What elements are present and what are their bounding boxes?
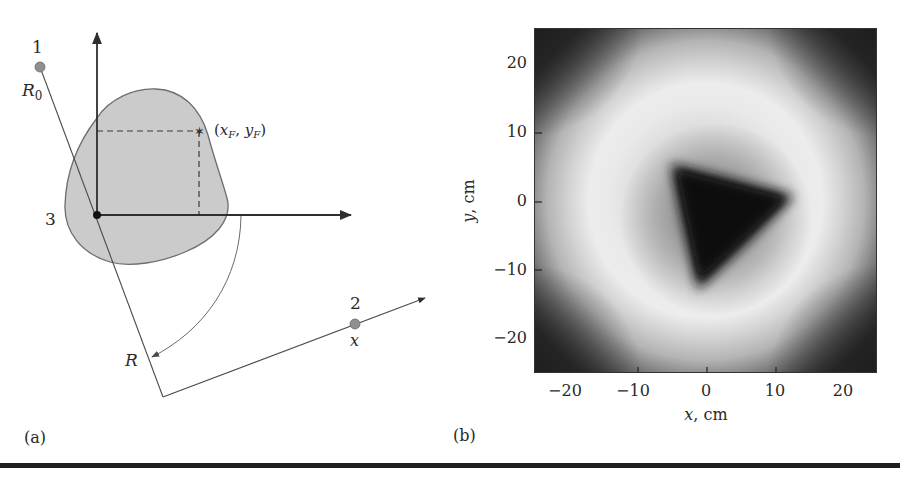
y-tick-label: −10 [493, 260, 527, 279]
x-axis-label: x, cm [684, 405, 727, 424]
x-tick-label: 20 [833, 381, 853, 400]
heatmap-image [534, 28, 877, 373]
point-3-origin [93, 211, 101, 219]
panel-b-x-tick-labels: −20 −10 0 10 20 [548, 381, 853, 400]
object-region [65, 89, 228, 264]
panel-b-caption: (b) [453, 426, 476, 445]
figure-separator-rule [0, 463, 900, 468]
label-point-3: 3 [45, 209, 56, 229]
y-tick-label: −20 [493, 328, 527, 347]
heatmap-ticks [535, 29, 877, 373]
panel-b-y-tick-labels: 20 10 0 −10 −20 [493, 53, 527, 347]
x-tick-label: 0 [701, 381, 711, 400]
y-axis-label: y, cm [459, 179, 478, 223]
label-R0: R0 [21, 80, 42, 103]
x-tick-label: −10 [616, 381, 650, 400]
label-R: R [124, 350, 138, 370]
point-1-source [35, 62, 45, 72]
detector-line-x [163, 298, 425, 397]
y-tick-label: 10 [507, 122, 527, 141]
point-2-detector [350, 319, 360, 329]
x-tick-label: 10 [765, 381, 785, 400]
label-point-1: 1 [32, 37, 43, 57]
y-tick-label: 20 [507, 53, 527, 72]
x-tick-label: −20 [548, 381, 582, 400]
label-x: x [350, 331, 359, 350]
y-tick-label: 0 [517, 191, 527, 210]
label-point-2: 2 [350, 293, 361, 313]
panel-a-caption: (a) [24, 428, 46, 447]
label-focus-point: (xF, yF) [214, 121, 266, 140]
focus-star-icon: ✶ [194, 124, 205, 139]
